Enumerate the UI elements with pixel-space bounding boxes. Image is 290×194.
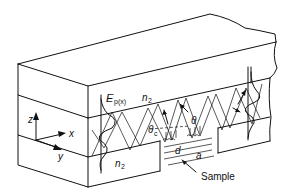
axis-y-label: y (57, 151, 64, 162)
axes (33, 112, 66, 150)
field-profile-right (245, 67, 260, 140)
field-label-sub: p(x) (114, 98, 126, 106)
sample-region (163, 126, 214, 172)
waveguide-diagram: z x y E p(x) n 2 n 2 θ c θ d a Sample (0, 0, 290, 194)
axis-z-label: z (27, 114, 33, 125)
theta-c-sub: c (154, 130, 158, 137)
n2-top-sub: 2 (148, 97, 152, 104)
axis-x-label: x (68, 128, 75, 139)
d-label: d (175, 145, 181, 156)
field-label: E (106, 92, 114, 104)
n2-bottom-sub: 2 (121, 163, 125, 170)
theta-label: θ (191, 115, 197, 126)
field-profile-left (99, 95, 115, 173)
a-label: a (196, 150, 202, 161)
sample-label: Sample (201, 171, 235, 182)
